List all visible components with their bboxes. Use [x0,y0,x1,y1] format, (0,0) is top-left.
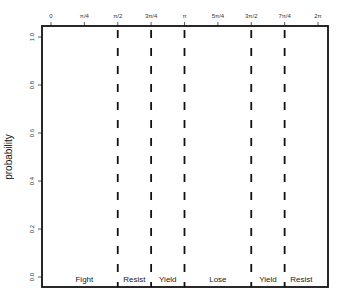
y-axis-left: 0.00.20.40.60.81.0 [29,32,42,281]
y-tick-label: 0.4 [29,176,35,185]
region-label-fight: Fight [75,275,94,284]
region-label-lose: Lose [209,275,227,284]
x-tick-label: π/2 [113,13,123,19]
y-tick-label: 0.0 [29,272,35,281]
region-label-resist: Resist [290,275,313,284]
chart: 0π/4π/23π/4π5π/43π/27π/42π 0.00.20.40.60… [0,0,342,302]
x-tick-label: 5π/4 [212,13,225,19]
region-label-resist: Resist [123,275,146,284]
y-axis-title: probability [3,134,14,180]
x-tick-label: 7π/4 [278,13,291,19]
region-label-yield: Yield [259,275,277,284]
y-tick-label: 0.8 [29,80,35,89]
x-tick-label: 0 [49,13,53,19]
y-tick-label: 0.6 [29,128,35,137]
x-tick-label: 2π [314,13,321,19]
x-tick-label: π [182,13,186,19]
region-labels: FightResistYieldLoseYieldResist [75,275,313,284]
dashed-dividers [118,30,285,287]
y-tick-label: 0.2 [29,224,35,233]
x-tick-label: 3π/2 [245,13,258,19]
x-tick-label: π/4 [80,13,90,19]
y-tick-label: 1.0 [29,32,35,41]
region-label-yield: Yield [159,275,177,284]
x-tick-label: 3π/4 [145,13,158,19]
x-axis-top: 0π/4π/23π/4π5π/43π/27π/42π [49,13,321,26]
